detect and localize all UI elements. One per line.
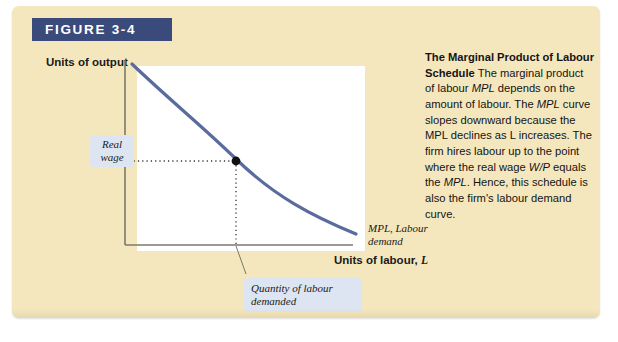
- caption-mpl-2: MPL: [537, 98, 560, 110]
- figure-caption: The Marginal Product of Labour Schedule …: [425, 50, 595, 222]
- callout-quantity-line2: demanded: [251, 295, 355, 308]
- curve-label-line2: demand: [368, 235, 428, 248]
- callout-real-wage-line2: wage: [96, 151, 128, 164]
- quantity-leader-line: [236, 246, 246, 274]
- callout-real-wage: Real wage: [90, 135, 134, 167]
- curve-label: MPL, Labour demand: [368, 222, 428, 249]
- callout-quantity-demanded: Quantity of labour demanded: [244, 278, 362, 312]
- curve-label-line1: MPL, Labour: [368, 222, 428, 235]
- callout-quantity-line1: Quantity of labour: [251, 282, 355, 295]
- mpl-curve: [132, 64, 356, 234]
- caption-mpl-1: MPL: [472, 82, 495, 94]
- caption-wp: W/P: [529, 161, 550, 173]
- callout-real-wage-line1: Real: [96, 138, 128, 151]
- equilibrium-point-marker: [232, 157, 241, 166]
- figure-card: FIGURE 3-4 Units of output Units of labo…: [12, 6, 600, 318]
- caption-mpl-3: MPL: [444, 176, 467, 188]
